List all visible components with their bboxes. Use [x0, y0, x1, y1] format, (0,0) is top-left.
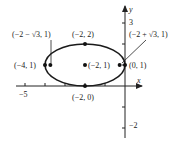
x-axis-label: x — [136, 76, 141, 85]
y-tick-label-neg2: −2 — [129, 121, 138, 130]
point-vertex-left — [43, 63, 47, 67]
y-axis-arrow-icon — [122, 5, 128, 12]
point-covertex-bottom — [83, 84, 87, 88]
point-center — [83, 63, 87, 67]
point-focus-right — [118, 63, 122, 67]
label-focus-left: (−2 − √3, 1) — [12, 30, 51, 39]
point-vertex-right — [123, 63, 127, 67]
label-vertex-left: (−4, 1) — [14, 61, 36, 70]
label-focus-right: (−2 + √3, 1) — [129, 30, 168, 39]
point-covertex-top — [83, 42, 87, 46]
label-covertex-top: (−2, 2) — [72, 30, 94, 39]
label-covertex-bottom: (−2, 0) — [72, 93, 94, 102]
label-vertex-right: (0, 1) — [129, 61, 147, 70]
y-tick-label-3: 3 — [129, 18, 133, 27]
leader-focus-right — [122, 40, 146, 63]
y-axis-label: y — [128, 5, 133, 14]
x-tick-label-neg5: −5 — [19, 90, 28, 99]
ellipse-diagram: x y −5 3 −2 (−4, 1) (−2 − √3, 1) (−2, 2)… — [0, 0, 185, 148]
points — [43, 42, 127, 88]
point-focus-left — [48, 63, 52, 67]
label-center: (−2, 1) — [88, 61, 110, 70]
